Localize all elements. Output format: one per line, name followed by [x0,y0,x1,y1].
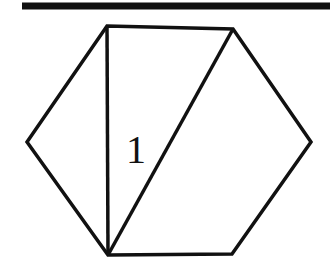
hexagon-diagram: 1 [0,0,330,275]
vertical-diagonal [107,26,108,255]
hexagon-outline [27,26,311,255]
segment-label: 1 [126,127,146,172]
